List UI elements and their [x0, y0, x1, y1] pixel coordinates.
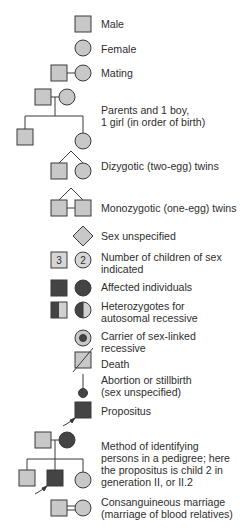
consanguineous-icon — [51, 500, 91, 516]
label-sex-unspecified: Sex unspecified — [101, 230, 176, 242]
parents-children-icon — [17, 89, 91, 149]
female-circle-icon — [75, 40, 91, 56]
label-method-line1: Method of identifying — [101, 440, 199, 452]
label-parents-children-line1: Parents and 1 boy, — [101, 104, 189, 116]
label-carrier-line1: Carrier of sex-linked — [101, 330, 196, 342]
label-abortion-line2: (sex unspecified) — [101, 386, 181, 398]
monozygotic-twins-icon — [51, 188, 91, 216]
label-abortion-line1: Abortion or stillbirth — [101, 374, 192, 386]
carrier-sex-linked-icon — [75, 330, 91, 346]
label-affected: Affected individuals — [101, 281, 192, 293]
label-method-line4: generation II, or II.2 — [101, 476, 193, 488]
affected-female-icon — [75, 280, 91, 296]
label-consanguineous-line1: Consanguineous marriage — [101, 496, 225, 508]
label-number-line1: Number of children of sex — [101, 251, 222, 263]
heterozygote-male-icon — [51, 302, 67, 318]
label-mating: Mating — [101, 67, 133, 79]
death-icon — [73, 348, 93, 372]
label-monozygotic: Monozygotic (one-egg) twins — [101, 202, 236, 214]
mating-icon — [51, 65, 91, 81]
heterozygote-female-icon — [75, 302, 91, 318]
label-propositus: Propositus — [101, 405, 151, 417]
dizygotic-twins-icon — [51, 151, 91, 179]
label-carrier-line2: recessive — [101, 342, 146, 354]
label-male: Male — [101, 18, 124, 30]
label-dizygotic: Dizygotic (two-egg) twins — [101, 160, 219, 172]
label-method-line2: persons in a pedigree; here — [101, 452, 230, 464]
male-square-icon — [75, 16, 91, 32]
label-number-line2: indicated — [101, 263, 143, 275]
number-male-count: 3 — [56, 255, 62, 266]
label-heterozygotes-line2: autosomal recessive — [101, 312, 198, 324]
affected-male-icon — [51, 280, 67, 296]
method-pedigree-icon — [19, 432, 91, 494]
label-female: Female — [101, 43, 136, 55]
label-method-line3: the propositus is child 2 in — [101, 464, 223, 476]
sex-unspecified-diamond-icon — [73, 226, 93, 246]
label-heterozygotes-line1: Heterozygotes for — [101, 300, 185, 312]
abortion-icon — [79, 374, 88, 398]
number-female-count: 2 — [80, 255, 86, 266]
label-consanguineous-line2: (marriage of blood relatives) — [101, 508, 233, 520]
label-death: Death — [101, 358, 129, 370]
propositus-icon — [63, 402, 91, 426]
label-parents-children-line2: 1 girl (in order of birth) — [101, 116, 205, 128]
